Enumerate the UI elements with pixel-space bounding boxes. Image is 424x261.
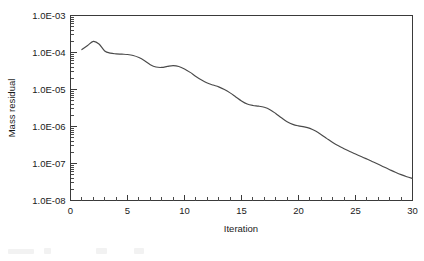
x-tick-label: 10 [179, 205, 190, 216]
y-tick-label: 1.0E-05 [32, 84, 65, 95]
y-tick-label: 1.0E-06 [32, 121, 65, 132]
x-tick-label: 30 [407, 205, 418, 216]
x-tick-label: 25 [350, 205, 361, 216]
chart-container: 1.0E-031.0E-041.0E-051.0E-061.0E-071.0E-… [0, 0, 424, 261]
mass-residual-convergence-chart: 1.0E-031.0E-041.0E-051.0E-061.0E-071.0E-… [0, 0, 424, 261]
x-axis-title: Iteration [224, 223, 258, 234]
x-tick-label: 20 [293, 205, 304, 216]
y-tick-label: 1.0E-08 [32, 195, 65, 206]
x-tick-label: 15 [236, 205, 247, 216]
x-tick-label: 0 [68, 205, 73, 216]
y-tick-label: 1.0E-07 [32, 158, 65, 169]
y-axis-title: Mass residual [6, 79, 17, 138]
y-tick-label: 1.0E-03 [32, 10, 65, 21]
x-tick-label: 5 [125, 205, 130, 216]
y-tick-label: 1.0E-04 [32, 47, 65, 58]
